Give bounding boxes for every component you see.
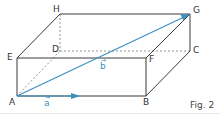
vertex-label-f: F xyxy=(149,55,154,64)
figure-caption: Fig. 2 xyxy=(190,100,214,110)
vertex-label-e: E xyxy=(7,53,13,62)
cuboid-diagram: A B C D E F G H → a → b Fig. 2 xyxy=(0,0,220,115)
divider xyxy=(0,113,220,114)
vertex-label-d: D xyxy=(52,45,59,54)
vector-a-arrow-icon: → xyxy=(45,94,50,100)
vertex-label-c: C xyxy=(193,46,199,55)
vector-label-a: → a xyxy=(44,99,50,108)
cuboid-drawing xyxy=(0,0,220,115)
vector-label-b: → b xyxy=(100,62,106,71)
vertex-label-a: A xyxy=(9,98,15,107)
vertex-label-h: H xyxy=(53,5,60,14)
vector-a-arrowhead xyxy=(71,93,80,99)
vector-b-arrow-icon: → xyxy=(101,57,106,63)
vertex-label-b: B xyxy=(143,98,149,107)
vertex-label-g: G xyxy=(193,6,200,15)
